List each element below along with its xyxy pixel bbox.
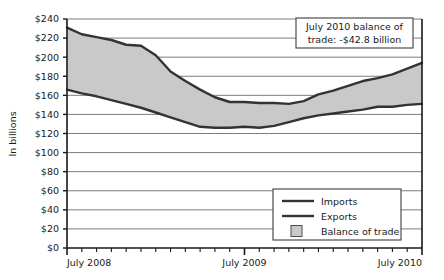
y-axis-label: In billions — [7, 111, 18, 156]
y-tick-label: $80 — [41, 166, 59, 177]
y-tick-label: $180 — [35, 71, 59, 82]
y-tick-label: $60 — [41, 185, 59, 196]
y-tick-label: $140 — [35, 109, 59, 120]
y-tick-label: $120 — [35, 128, 59, 139]
y-tick-label: $160 — [35, 90, 59, 101]
y-tick-label: $0 — [47, 242, 59, 253]
chart-legend: Imports Exports Balance of trade — [273, 189, 401, 240]
y-tick-label: $200 — [35, 52, 59, 63]
legend-label-balance-of-trade: Balance of trade — [321, 226, 400, 237]
legend-label-exports: Exports — [321, 211, 357, 222]
balance-of-trade-chart: $0$20$40$60$80$100$120$140$160$180$200$2… — [0, 0, 444, 280]
y-tick-label: $100 — [35, 147, 59, 158]
y-tick-label: $240 — [35, 13, 59, 24]
y-tick-label: $40 — [41, 204, 59, 215]
legend-marker-balance-of-trade — [291, 226, 302, 237]
x-tick-label: July 2010 — [377, 257, 422, 268]
x-tick-label: July 2009 — [221, 257, 266, 268]
annotation-balance-note: July 2010 balance of trade: -$42.8 billi… — [296, 18, 413, 48]
x-tick-label: July 2008 — [66, 257, 111, 268]
annotation-line-2: trade: -$42.8 billion — [308, 34, 402, 45]
legend-label-imports: Imports — [321, 196, 358, 207]
annotation-line-1: July 2010 balance of — [305, 21, 404, 32]
y-tick-label: $220 — [35, 32, 59, 43]
chart-canvas: $0$20$40$60$80$100$120$140$160$180$200$2… — [0, 0, 444, 280]
y-tick-label: $20 — [41, 223, 59, 234]
